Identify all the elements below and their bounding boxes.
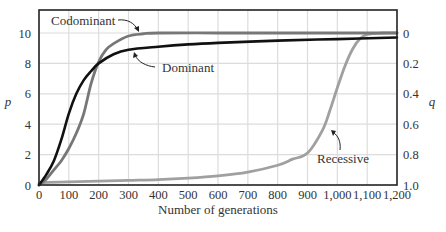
- y-tick-label: 8: [25, 57, 31, 71]
- x-tick-label: 900: [298, 188, 317, 202]
- y-axis-left-ticks: 0246810: [19, 27, 32, 193]
- y-right-tick-label: 0.2: [403, 57, 419, 71]
- x-tick-label: 1,000: [323, 188, 351, 202]
- x-tick-label: 300: [119, 188, 138, 202]
- y-right-tick-label: 0.6: [403, 118, 419, 132]
- y-right-tick-label: 0.8: [403, 148, 419, 162]
- y-right-tick-label: 1.0: [403, 179, 419, 193]
- y-axis-right-label: q: [429, 94, 436, 109]
- x-tick-label: 0: [36, 188, 42, 202]
- codominant-annotation: Codominant: [51, 13, 116, 28]
- y-tick-label: 0: [25, 179, 31, 193]
- x-axis-ticks: 01002003004005006007008009001,0001,1001,…: [36, 188, 411, 202]
- recessive-arrow-icon: [333, 132, 340, 150]
- y-axis-right-ticks: 1.00.80.60.40.20: [403, 27, 419, 193]
- dominant-arrow-icon: [135, 55, 155, 67]
- x-tick-label: 600: [209, 188, 228, 202]
- y-tick-label: 4: [25, 118, 32, 132]
- y-right-tick-label: 0.4: [403, 87, 419, 101]
- x-tick-label: 500: [179, 188, 198, 202]
- x-tick-label: 200: [89, 188, 108, 202]
- y-tick-label: 6: [25, 87, 31, 101]
- recessive-annotation: Recessive: [317, 151, 369, 166]
- y-tick-label: 10: [19, 27, 32, 41]
- x-tick-label: 1,100: [353, 188, 381, 202]
- x-tick-label: 700: [238, 188, 257, 202]
- x-tick-label: 100: [59, 188, 78, 202]
- recessive-arrowhead-icon: [331, 130, 336, 136]
- allele-frequency-chart: 01002003004005006007008009001,0001,1001,…: [0, 0, 446, 232]
- y-tick-label: 2: [25, 148, 31, 162]
- x-tick-label: 800: [268, 188, 287, 202]
- y-axis-left-label: p: [4, 94, 12, 109]
- x-tick-label: 400: [149, 188, 168, 202]
- y-right-tick-label: 0: [403, 27, 409, 41]
- dominant-annotation: Dominant: [162, 60, 214, 75]
- x-axis-label: Number of generations: [158, 202, 278, 217]
